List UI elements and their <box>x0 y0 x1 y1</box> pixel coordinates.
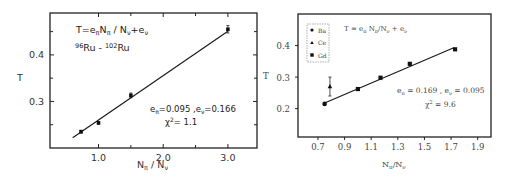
data-point-gd <box>356 87 360 91</box>
x-tick-label: 1.1 <box>364 142 378 152</box>
legend-label-ce: Ce <box>318 39 327 46</box>
x-tick-label: 1.7 <box>444 142 458 152</box>
legend-circle-marker <box>310 28 313 31</box>
y-tick-label: 0.2 <box>276 104 290 114</box>
legend: Ba Ce Gd <box>307 24 329 62</box>
y-tick-label: 0.4 <box>276 41 290 51</box>
legend-label-ba: Ba <box>318 27 326 34</box>
x-tick-label: 0.7 <box>311 142 325 152</box>
chart-right: 0.70.91.11.31.51.71.90.20.30.4 T Ba Ce G… <box>0 0 516 185</box>
x-axis-label: Nπ/Nν <box>382 160 406 170</box>
x-tick-label: 1.3 <box>391 142 405 152</box>
formula-annotation: T = eπ Nπ/Nν + eν <box>344 25 407 34</box>
y-axis-label: T <box>263 71 269 81</box>
x-tick-label: 1.5 <box>418 142 432 152</box>
legend-triangle-marker <box>310 41 314 44</box>
legend-square-marker <box>310 53 313 56</box>
data-point-ce <box>328 84 333 88</box>
y-tick-label: 0.3 <box>276 73 290 83</box>
data-point-gd <box>453 47 457 51</box>
data-point-ba <box>322 102 327 107</box>
data-point-gd <box>408 62 412 66</box>
data-points <box>322 47 457 106</box>
tick-labels: 0.70.91.11.31.51.71.90.20.30.4 <box>276 41 484 152</box>
x-tick-label: 1.9 <box>471 142 485 152</box>
chi-squared-annotation: χ2 = 9.6 <box>425 99 456 109</box>
data-point-gd <box>378 76 382 80</box>
legend-label-gd: Gd <box>318 52 327 59</box>
x-tick-label: 0.9 <box>338 142 352 152</box>
fit-params-annotation: eπ = 0.169 , eν = 0.095 <box>397 86 485 96</box>
